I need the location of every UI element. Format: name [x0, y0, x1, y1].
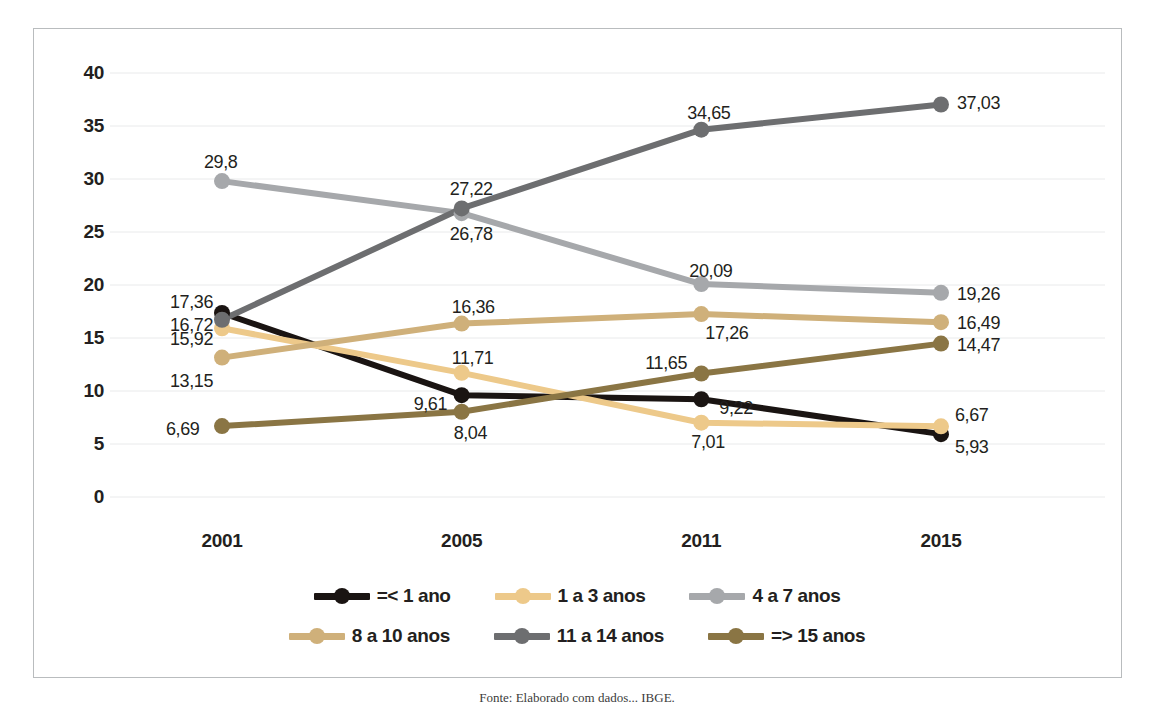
data-point	[214, 312, 230, 328]
legend-item-1[interactable]: 1 a 3 anos	[495, 585, 646, 607]
x-tick-label: 2011	[681, 530, 721, 552]
series-line-0	[222, 313, 941, 434]
legend-item-2[interactable]: 4 a 7 anos	[689, 585, 840, 607]
data-label: 37,03	[957, 93, 1000, 114]
data-label: 29,8	[204, 152, 237, 173]
x-tick-label: 2005	[441, 530, 482, 552]
data-point	[693, 415, 709, 431]
y-tick-label: 15	[83, 327, 104, 349]
legend-swatch-icon	[494, 633, 550, 640]
legend-swatch-icon	[314, 593, 370, 600]
data-label: 16,36	[452, 297, 495, 318]
data-point	[214, 350, 230, 366]
data-point	[933, 336, 949, 352]
data-label: 13,15	[170, 371, 213, 392]
data-point	[933, 96, 949, 112]
legend-swatch-icon	[708, 633, 764, 640]
data-label: 5,93	[955, 437, 988, 458]
data-label: 6,69	[166, 419, 199, 440]
chart-legend: =< 1 ano1 a 3 anos4 a 7 anos 8 a 10 anos…	[0, 576, 1154, 656]
legend-item-5[interactable]: => 15 anos	[708, 625, 865, 647]
legend-label: 11 a 14 anos	[557, 625, 664, 647]
data-label: 27,22	[450, 179, 493, 200]
y-tick-label: 5	[94, 433, 104, 455]
data-point	[214, 173, 230, 189]
data-label: 17,26	[705, 323, 748, 344]
legend-label: 8 a 10 anos	[352, 625, 450, 647]
legend-swatch-icon	[289, 633, 345, 640]
data-label: 7,01	[691, 432, 724, 453]
legend-label: 4 a 7 anos	[752, 585, 840, 607]
y-tick-label: 20	[83, 274, 104, 296]
y-tick-label: 35	[83, 115, 104, 137]
x-tick-label: 2001	[201, 530, 242, 552]
data-label: 11,65	[645, 353, 687, 374]
data-label: 6,67	[955, 405, 988, 426]
legend-item-4[interactable]: 11 a 14 anos	[494, 625, 664, 647]
data-point	[693, 306, 709, 322]
data-label: 16,49	[957, 313, 1000, 334]
series-line-2	[222, 181, 941, 293]
legend-swatch-icon	[495, 593, 551, 600]
y-tick-label: 10	[83, 380, 104, 402]
data-label: 11,71	[452, 348, 494, 369]
y-tick-label: 0	[94, 486, 104, 508]
y-tick-label: 25	[83, 221, 104, 243]
data-point	[454, 316, 470, 332]
legend-item-3[interactable]: 8 a 10 anos	[289, 625, 450, 647]
data-label: 9,22	[719, 398, 752, 419]
data-point	[454, 200, 470, 216]
x-tick-label: 2015	[920, 530, 961, 552]
figure-caption: Fonte: Elaborado com dados... IBGE.	[0, 690, 1154, 711]
legend-item-0[interactable]: =< 1 ano	[314, 585, 451, 607]
data-label: 16,72	[170, 315, 213, 336]
data-point	[933, 418, 949, 434]
legend-label: =< 1 ano	[377, 585, 451, 607]
data-label: 19,26	[957, 284, 1000, 305]
y-tick-label: 30	[83, 168, 104, 190]
data-point	[214, 418, 230, 434]
legend-row-top: =< 1 ano1 a 3 anos4 a 7 anos	[0, 576, 1154, 616]
data-point	[454, 387, 470, 403]
legend-label: => 15 anos	[771, 625, 865, 647]
data-point	[693, 366, 709, 382]
legend-label: 1 a 3 anos	[558, 585, 646, 607]
data-label: 34,65	[687, 103, 730, 124]
data-label: 14,47	[957, 335, 1000, 356]
data-label: 9,61	[414, 394, 447, 415]
series-line-5	[222, 344, 941, 426]
data-label: 26,78	[450, 224, 493, 245]
data-label: 20,09	[689, 261, 732, 282]
data-point	[454, 404, 470, 420]
legend-row-bottom: 8 a 10 anos11 a 14 anos=> 15 anos	[0, 616, 1154, 656]
data-point	[933, 314, 949, 330]
y-tick-label: 40	[83, 62, 104, 84]
data-point	[693, 122, 709, 138]
data-label: 17,36	[170, 292, 213, 313]
data-point	[933, 285, 949, 301]
data-label: 8,04	[454, 423, 487, 444]
legend-swatch-icon	[689, 593, 745, 600]
data-point	[693, 391, 709, 407]
